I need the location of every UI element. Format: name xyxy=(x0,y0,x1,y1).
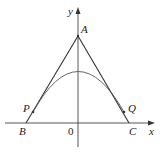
point-b-label: B xyxy=(19,125,26,137)
y-axis-label: y xyxy=(67,5,73,17)
x-axis-label: x xyxy=(148,125,154,137)
point-p-label: P xyxy=(22,102,30,114)
point-a-label: A xyxy=(80,23,88,35)
y-axis-arrow-icon xyxy=(76,7,81,14)
point-c-label: C xyxy=(129,125,137,137)
point-a xyxy=(77,35,79,37)
diagram-figure: y A P Q B 0 C x xyxy=(0,0,160,155)
point-q-label: Q xyxy=(128,102,136,114)
point-p xyxy=(32,111,35,114)
origin-label: 0 xyxy=(68,125,74,137)
tangent-curve xyxy=(33,72,124,113)
y-axis xyxy=(76,7,81,147)
side-ac xyxy=(78,36,129,123)
point-q xyxy=(123,111,126,114)
